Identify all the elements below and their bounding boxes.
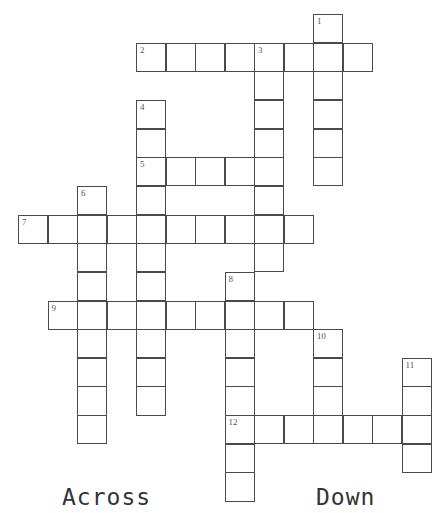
crossword-cell[interactable] xyxy=(166,157,196,186)
crossword-cell[interactable]: 5 xyxy=(136,157,166,186)
crossword-cell[interactable] xyxy=(254,243,284,272)
clue-number: 8 xyxy=(229,275,234,284)
crossword-cell[interactable]: 2 xyxy=(136,43,166,72)
crossword-cell[interactable] xyxy=(313,71,343,100)
crossword-cell[interactable] xyxy=(136,243,166,272)
crossword-cell[interactable] xyxy=(195,157,225,186)
crossword-cell[interactable] xyxy=(254,100,284,129)
crossword-cell[interactable] xyxy=(195,215,225,244)
crossword-cell[interactable] xyxy=(313,43,343,72)
crossword-cell[interactable] xyxy=(313,129,343,158)
crossword-cell[interactable] xyxy=(313,386,343,415)
crossword-grid: 123456781291011 xyxy=(0,0,442,513)
clue-number: 12 xyxy=(229,418,238,427)
crossword-cell[interactable] xyxy=(254,129,284,158)
crossword-cell[interactable]: 10 xyxy=(313,329,343,358)
crossword-cell[interactable] xyxy=(136,215,166,244)
clue-number: 3 xyxy=(258,46,263,55)
crossword-cell[interactable] xyxy=(107,215,137,244)
crossword-cell[interactable] xyxy=(225,358,255,387)
crossword-cell[interactable] xyxy=(136,186,166,215)
crossword-cell[interactable] xyxy=(77,215,107,244)
crossword-cell[interactable] xyxy=(372,415,402,444)
crossword-cell[interactable] xyxy=(77,386,107,415)
crossword-cell[interactable] xyxy=(284,215,314,244)
crossword-cell[interactable] xyxy=(77,329,107,358)
crossword-cell[interactable] xyxy=(254,301,284,330)
crossword-cell[interactable] xyxy=(225,386,255,415)
clue-number: 6 xyxy=(81,189,86,198)
crossword-cell[interactable]: 3 xyxy=(254,43,284,72)
clue-number: 10 xyxy=(317,332,326,341)
clue-number: 2 xyxy=(140,46,145,55)
crossword-cell[interactable] xyxy=(254,186,284,215)
crossword-cell[interactable] xyxy=(77,243,107,272)
crossword-cell[interactable] xyxy=(195,301,225,330)
crossword-cell[interactable] xyxy=(343,43,373,72)
crossword-cell[interactable] xyxy=(225,215,255,244)
crossword-cell[interactable] xyxy=(284,301,314,330)
crossword-cell[interactable] xyxy=(402,415,432,444)
crossword-cell[interactable]: 7 xyxy=(18,215,48,244)
crossword-cell[interactable] xyxy=(254,71,284,100)
crossword-cell[interactable] xyxy=(48,215,78,244)
crossword-cell[interactable] xyxy=(313,100,343,129)
crossword-cell[interactable] xyxy=(225,157,255,186)
crossword-cell[interactable] xyxy=(254,415,284,444)
crossword-cell[interactable] xyxy=(313,358,343,387)
crossword-cell[interactable] xyxy=(166,215,196,244)
crossword-cell[interactable] xyxy=(136,272,166,301)
crossword-cell[interactable] xyxy=(284,415,314,444)
crossword-cell[interactable]: 1 xyxy=(313,14,343,43)
crossword-cell[interactable]: 11 xyxy=(402,358,432,387)
crossword-cell[interactable] xyxy=(166,301,196,330)
crossword-cell[interactable] xyxy=(136,301,166,330)
crossword-cell[interactable] xyxy=(402,444,432,473)
crossword-cell[interactable]: 6 xyxy=(77,186,107,215)
crossword-cell[interactable]: 12 xyxy=(225,415,255,444)
crossword-cell[interactable] xyxy=(166,43,196,72)
clue-number: 7 xyxy=(22,218,27,227)
crossword-cell[interactable] xyxy=(313,415,343,444)
crossword-cell[interactable] xyxy=(254,157,284,186)
crossword-cell[interactable] xyxy=(225,472,255,501)
crossword-cell[interactable] xyxy=(402,386,432,415)
crossword-cell[interactable] xyxy=(77,272,107,301)
crossword-cell[interactable] xyxy=(313,157,343,186)
crossword-cell[interactable] xyxy=(136,358,166,387)
crossword-cell[interactable] xyxy=(136,129,166,158)
crossword-cell[interactable]: 9 xyxy=(48,301,78,330)
crossword-cell[interactable]: 8 xyxy=(225,272,255,301)
clue-number: 11 xyxy=(406,361,415,370)
crossword-cell[interactable] xyxy=(225,444,255,473)
crossword-cell[interactable] xyxy=(343,415,373,444)
crossword-cell[interactable] xyxy=(284,43,314,72)
crossword-cell[interactable]: 4 xyxy=(136,100,166,129)
down-heading: Down xyxy=(316,484,375,510)
crossword-cell[interactable] xyxy=(225,329,255,358)
crossword-cell[interactable] xyxy=(136,329,166,358)
crossword-cell[interactable] xyxy=(225,301,255,330)
crossword-cell[interactable] xyxy=(107,301,137,330)
crossword-cell[interactable] xyxy=(254,215,284,244)
clue-number: 5 xyxy=(140,160,145,169)
clue-number: 9 xyxy=(52,304,57,313)
crossword-cell[interactable] xyxy=(77,301,107,330)
crossword-cell[interactable] xyxy=(136,386,166,415)
clue-number: 4 xyxy=(140,103,145,112)
crossword-cell[interactable] xyxy=(195,43,225,72)
across-heading: Across xyxy=(62,484,151,510)
crossword-cell[interactable] xyxy=(225,43,255,72)
clue-number: 1 xyxy=(317,17,322,26)
crossword-cell[interactable] xyxy=(77,358,107,387)
crossword-cell[interactable] xyxy=(77,415,107,444)
